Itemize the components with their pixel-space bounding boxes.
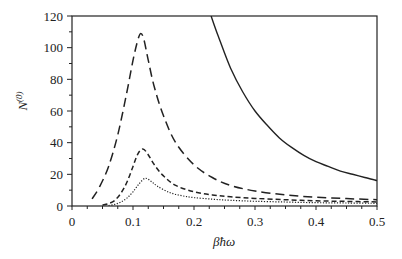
x-axis-title: βħω xyxy=(212,234,235,249)
y-tick-label: 80 xyxy=(50,72,63,87)
series-long-dashed-line xyxy=(92,33,377,199)
x-tick-label: 0 xyxy=(69,214,76,229)
y-tick-label: 20 xyxy=(50,167,63,182)
x-tick-label: 0.5 xyxy=(369,214,385,229)
x-tick-label: 0.1 xyxy=(125,214,141,229)
x-tick-label: 0.3 xyxy=(247,214,263,229)
series-medium-dashed-line xyxy=(103,149,378,205)
series-solid-line xyxy=(211,16,377,181)
x-tick-label: 0.4 xyxy=(308,214,325,229)
chart: 00.10.20.30.40.5020406080100120 βħω N(0) xyxy=(0,0,402,259)
y-tick-label: 120 xyxy=(44,9,64,24)
y-tick-label: 40 xyxy=(50,135,63,150)
y-tick-label: 60 xyxy=(50,104,63,119)
y-axis-title: N(0) xyxy=(14,91,30,111)
plot-frame xyxy=(72,16,377,206)
y-tick-label: 0 xyxy=(57,199,64,214)
series-layer xyxy=(92,16,377,206)
series-dotted-line xyxy=(109,178,377,205)
x-tick-label: 0.2 xyxy=(186,214,202,229)
y-tick-label: 100 xyxy=(44,40,64,55)
